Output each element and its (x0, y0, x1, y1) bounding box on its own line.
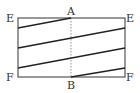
segment-4 (71, 68, 125, 77)
label-b: B (67, 79, 75, 92)
rectangle-outline (18, 18, 125, 77)
label-e-left: E (6, 12, 14, 25)
segment-2 (18, 28, 125, 48)
segment-1 (18, 18, 71, 28)
label-f-left: F (6, 71, 14, 84)
segment-3 (18, 48, 125, 68)
label-f-right: F (126, 71, 134, 84)
label-e-right: E (126, 12, 134, 25)
label-a: A (66, 5, 76, 18)
rectangle-diagram: E A E F B F (0, 0, 140, 93)
